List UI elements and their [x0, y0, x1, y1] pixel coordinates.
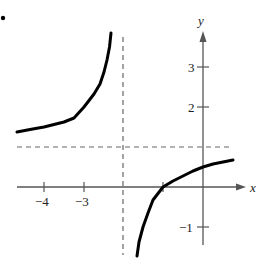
- x-tick-label-neg4: −4: [35, 194, 49, 209]
- curve-right-branch: [137, 160, 233, 256]
- bullet-marker: [1, 16, 5, 20]
- curve-left-branch: [17, 33, 111, 132]
- x-axis-label: x: [249, 180, 256, 195]
- y-tick-label-neg1: −1: [179, 220, 193, 235]
- y-axis-arrow-icon: [200, 31, 207, 42]
- rational-function-graph: y x −4 −3 3 2 −1: [0, 0, 263, 269]
- x-axis: [17, 182, 246, 192]
- y-axis-label: y: [196, 13, 204, 28]
- y-tick-label-3: 3: [188, 60, 195, 75]
- y-axis: [197, 31, 209, 245]
- y-tick-label-2: 2: [188, 100, 195, 115]
- x-tick-label-neg3: −3: [75, 194, 89, 209]
- x-axis-arrow-icon: [236, 184, 246, 191]
